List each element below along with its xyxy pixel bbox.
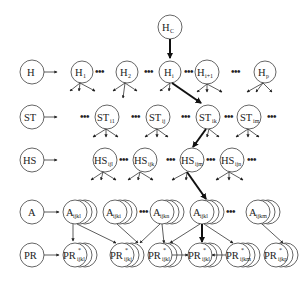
node-subscript: i+1: [205, 73, 213, 79]
a-node-ijkl: A ijkl: [63, 200, 97, 224]
node-subscript: ik: [212, 118, 217, 124]
st-node-ij: ST ij: [146, 105, 170, 129]
bold-edge-hsijm-aijkl: [187, 172, 206, 199]
node-label: PR: [110, 250, 123, 261]
h-node-1: H 1: [71, 61, 93, 83]
node-subscript: i1: [110, 118, 115, 124]
node-subscript: ijkl: [202, 256, 210, 262]
pr-node-ijkp: PR * ijkp: [264, 243, 298, 267]
a-node-ijkm: A ijkm: [246, 200, 280, 224]
ellipsis: •••: [267, 111, 277, 122]
ellipsis: •••: [184, 66, 194, 77]
node-superscript: *: [241, 247, 244, 253]
node-label: ST: [149, 112, 162, 123]
node-superscript: *: [203, 247, 206, 253]
a-node-ijki: A ijki: [103, 200, 137, 224]
node-label: PR: [226, 250, 239, 261]
node-label: PR: [188, 250, 201, 261]
node-label: H: [197, 67, 205, 78]
node-label: H: [164, 67, 172, 78]
st-node-im: ST im: [237, 105, 261, 129]
node-subscript: im: [253, 118, 260, 124]
level-label-st: ST: [20, 105, 57, 129]
node-subscript: ijkn: [160, 213, 169, 219]
hs-node-ijn: HS ijn: [220, 148, 244, 172]
node-subscript: ij: [162, 118, 166, 124]
a-node-ijkl-selected: A ijkl: [190, 200, 224, 224]
ellipsis: •••: [131, 111, 141, 122]
ellipsis: •••: [247, 154, 257, 165]
node-label: PR: [63, 250, 76, 261]
node-superscript: *: [78, 247, 81, 253]
h-row-fanout-arrows: [70, 83, 272, 98]
ellipsis: •••: [80, 111, 90, 122]
level-label-hs: HS: [20, 148, 57, 172]
st-node-ik: ST ik: [196, 105, 220, 129]
node-subscript: ijki: [113, 213, 121, 219]
h-node-i: H i: [159, 61, 181, 83]
level-label-a: A: [20, 200, 59, 224]
level-label-h: H: [20, 60, 57, 84]
a-node-ijkn: A ijkn: [150, 200, 184, 224]
node-superscript: *: [279, 247, 282, 253]
hs-node-ijk: HS ijk: [133, 148, 157, 172]
level-label-text: PR: [24, 250, 37, 261]
ellipsis: •••: [224, 111, 234, 122]
ellipsis: •••: [95, 66, 105, 77]
node-subscript: 2: [128, 73, 131, 79]
ellipsis: •••: [206, 154, 216, 165]
pr-node-ijkl-1: PR * ijkl: [63, 243, 97, 267]
node-label: ST: [240, 112, 253, 123]
node-subscript: C: [170, 28, 174, 34]
node-label: HS: [134, 155, 148, 166]
hierarchy-diagram: H C H ST HS A PR H 1 ••• H 2 •••: [0, 0, 307, 281]
node-label: HS: [94, 155, 108, 166]
node-subscript: ijkl: [200, 213, 208, 219]
level-label-text: HS: [23, 155, 37, 166]
node-subscript: ijkm: [240, 256, 251, 262]
node-subscript: ijkl: [77, 256, 85, 262]
ellipsis: •••: [181, 111, 191, 122]
ellipsis: •••: [139, 206, 149, 217]
node-subscript: ijkl: [73, 213, 81, 219]
node-label: HS: [221, 155, 235, 166]
node-subscript: ijn: [235, 161, 241, 167]
node-label: HS: [181, 155, 195, 166]
level-label-text: H: [27, 67, 35, 78]
node-subscript: ijkl: [162, 256, 170, 262]
pr-node-ijkm: PR * ijkm: [226, 243, 260, 267]
ellipsis: •••: [231, 66, 241, 77]
ellipsis: •••: [166, 154, 176, 165]
root-node-hc: H C: [158, 15, 182, 39]
hs-node-ijm: HS ijm: [180, 148, 204, 172]
h-node-2: H 2: [116, 61, 138, 83]
node-label: H: [75, 67, 83, 78]
bold-edge-stik-hsijm: [193, 129, 206, 147]
h-node-i-plus-1: H i+1: [195, 60, 219, 84]
node-subscript: ijm: [195, 161, 203, 167]
level-label-text: ST: [24, 112, 37, 123]
node-subscript: ijkm: [256, 213, 267, 219]
node-subscript: 1: [83, 73, 86, 79]
pr-node-ijkj: PR * ijkj: [110, 243, 144, 267]
hs-row-fanout-arrows: [91, 172, 243, 180]
h-node-p: H p: [254, 61, 276, 83]
node-label: H: [162, 22, 170, 33]
bold-edge-hi-stik: [172, 83, 201, 103]
st-row-fanout-arrows: [93, 129, 259, 137]
node-label: H: [120, 67, 128, 78]
level-label-pr: PR: [20, 243, 59, 267]
node-subscript: ijk: [148, 161, 154, 167]
node-subscript: ijkj: [124, 256, 132, 262]
node-label: ST: [97, 112, 110, 123]
node-superscript: *: [125, 247, 128, 253]
node-label: H: [258, 67, 266, 78]
node-label: PR: [148, 250, 161, 261]
node-subscript: p: [266, 73, 269, 79]
st-node-i1: ST i1: [95, 105, 119, 129]
node-label: PR: [264, 250, 277, 261]
node-subscript: ijkp: [278, 256, 287, 262]
ellipsis: •••: [226, 206, 236, 217]
a-to-pr-edges: [73, 224, 283, 243]
node-subscript: ijl: [108, 161, 113, 167]
